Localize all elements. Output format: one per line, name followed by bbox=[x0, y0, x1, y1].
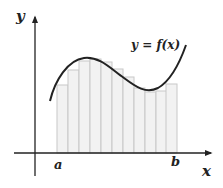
riemann-bar bbox=[57, 85, 68, 153]
lower-bound-label: a bbox=[54, 158, 62, 171]
y-axis-label: y bbox=[16, 9, 25, 24]
riemann-bar bbox=[79, 61, 90, 153]
x-axis-label: x bbox=[202, 164, 211, 179]
riemann-bar bbox=[145, 92, 156, 153]
riemann-sum-diagram bbox=[0, 0, 223, 188]
riemann-bar bbox=[134, 88, 145, 153]
function-label: y = f(x) bbox=[131, 39, 180, 51]
riemann-bar bbox=[101, 62, 112, 153]
riemann-bar bbox=[166, 84, 177, 153]
riemann-bar bbox=[90, 59, 101, 153]
riemann-bar bbox=[112, 69, 123, 153]
upper-bound-label: b bbox=[171, 155, 180, 168]
riemann-bar bbox=[123, 77, 134, 153]
riemann-bar bbox=[68, 70, 79, 153]
riemann-bar bbox=[156, 91, 167, 153]
